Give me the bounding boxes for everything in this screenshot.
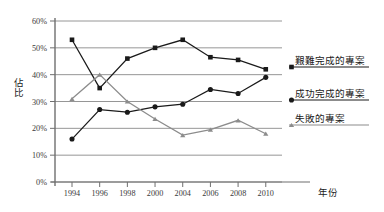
data-point	[69, 137, 74, 142]
series-1	[69, 75, 268, 142]
data-point	[263, 75, 268, 80]
chart-canvas: 0%10%20%30%40%50%60%19941996199820002004…	[0, 0, 384, 212]
series-line	[72, 40, 266, 88]
data-point	[180, 37, 185, 42]
data-point	[236, 58, 241, 63]
data-point	[97, 86, 102, 91]
legend-marker	[289, 97, 294, 102]
x-tick-label: 2000	[147, 189, 163, 198]
x-ticks: 19941996199820002004200620082010	[64, 182, 274, 198]
x-tick-label: 2010	[258, 189, 274, 198]
y-tick-label: 30%	[32, 98, 47, 107]
y-tick-label: 0%	[36, 178, 47, 187]
y-gridlines: 0%10%20%30%40%50%60%	[32, 17, 282, 187]
y-tick-label: 20%	[32, 124, 47, 133]
legend-marker	[289, 65, 294, 70]
data-point	[70, 37, 75, 42]
x-tick-label: 2004	[175, 189, 191, 198]
y-tick-label: 10%	[32, 151, 47, 160]
y-tick-label: 40%	[32, 71, 47, 80]
x-axis-title: 年份	[318, 187, 338, 198]
data-point	[125, 56, 130, 61]
series-2	[69, 73, 268, 138]
y-axis-title: 佔比	[13, 77, 24, 98]
series-0	[70, 37, 268, 90]
data-point	[208, 55, 213, 60]
data-point	[125, 110, 130, 115]
x-tick-label: 2008	[230, 189, 246, 198]
data-point	[263, 67, 268, 72]
data-point	[236, 91, 241, 96]
data-point	[180, 102, 185, 107]
y-tick-label: 60%	[32, 17, 47, 26]
data-point	[97, 107, 102, 112]
series-line	[72, 75, 266, 135]
legend-label: 艱難完成的專案	[295, 55, 365, 66]
x-tick-label: 2006	[202, 189, 218, 198]
legend-label: 成功完成的專案	[295, 88, 365, 99]
x-tick-label: 1998	[119, 189, 135, 198]
data-point	[208, 87, 213, 92]
line-chart: 0%10%20%30%40%50%60%19941996199820002004…	[0, 0, 384, 212]
y-tick-label: 50%	[32, 44, 47, 53]
x-tick-label: 1994	[64, 189, 80, 198]
data-point	[153, 46, 158, 51]
legend: 艱難完成的專案成功完成的專案失敗的專案	[289, 55, 369, 128]
data-point	[152, 104, 157, 109]
legend-label: 失敗的專案	[295, 113, 345, 124]
x-tick-label: 1996	[91, 189, 107, 198]
